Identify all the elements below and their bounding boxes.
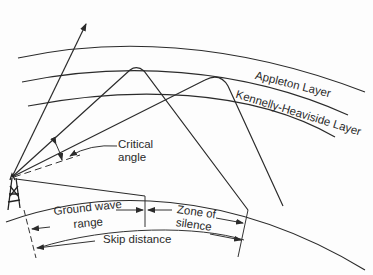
skip-end-divider bbox=[238, 210, 248, 257]
ground-range-arrow-left bbox=[32, 227, 50, 229]
tower-baseline-divider bbox=[24, 210, 36, 258]
skip-distance-label: Skip distance bbox=[103, 233, 171, 245]
skywave-diagram: Appleton Layer Kennelly-Heaviside Layer … bbox=[0, 0, 373, 275]
ground-wave-label-line2: range bbox=[73, 215, 103, 230]
critical-angle-label-line1: Critical bbox=[118, 138, 153, 150]
ground-wave-ray bbox=[16, 179, 145, 196]
skip-arrow-left bbox=[37, 241, 95, 248]
escaping-ray bbox=[12, 24, 86, 177]
diagram-drawing bbox=[0, 0, 373, 275]
critical-angle-label-line2: angle bbox=[118, 151, 146, 163]
zone-arrow-right bbox=[216, 218, 243, 223]
critical-angle-leader bbox=[70, 146, 117, 156]
